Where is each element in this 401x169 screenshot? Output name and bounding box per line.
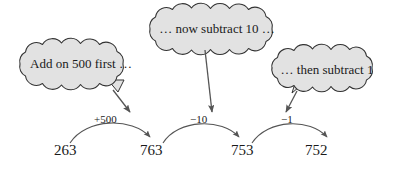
arc-arrow-2 <box>163 124 239 143</box>
pointer-arrow-3 <box>286 91 297 112</box>
number-752: 752 <box>305 143 328 158</box>
pointer-arrow-1 <box>113 90 130 112</box>
callout-2-cloud <box>150 3 273 55</box>
operation-label-3: −1 <box>281 114 293 125</box>
pointer-arrow-2 <box>205 50 212 112</box>
operation-label-2: −10 <box>190 114 207 125</box>
operation-label-1: +500 <box>94 114 117 125</box>
diagram-canvas: Add on 500 first … … now subtract 10 … …… <box>0 0 401 169</box>
number-753: 753 <box>231 143 254 158</box>
arc-arrow-1 <box>70 123 150 143</box>
callout-1-cloud <box>20 38 124 90</box>
number-263: 263 <box>54 143 77 158</box>
number-763: 763 <box>140 143 163 158</box>
callout-3-cloud <box>272 44 373 92</box>
arc-arrow-3 <box>252 124 327 143</box>
